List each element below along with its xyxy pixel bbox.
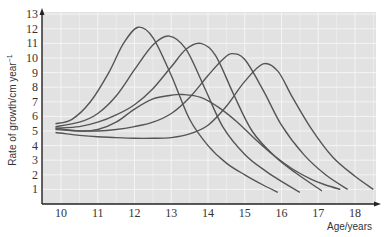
y-tick-6: 6	[32, 109, 38, 123]
y-tick-7: 7	[32, 95, 38, 109]
x-tick-14: 14	[202, 206, 214, 220]
x-tick-15: 15	[239, 206, 251, 220]
x-axis-label: Age/years	[327, 221, 372, 232]
y-axis-label-sup: −1	[6, 54, 13, 62]
y-tick-11: 11	[26, 36, 38, 50]
y-axis-label-text: Rate of growth/cm year	[7, 62, 18, 166]
x-tick-10: 10	[55, 206, 67, 220]
y-tick-8: 8	[32, 80, 38, 94]
x-tick-17: 17	[312, 206, 324, 220]
y-tick-13: 13	[26, 7, 38, 21]
y-tick-3: 3	[32, 153, 38, 167]
y-tick-9: 9	[32, 66, 38, 80]
x-tick-16: 16	[276, 206, 288, 220]
y-axis-label: Rate of growth/cm year−1	[6, 54, 18, 165]
growth-rate-chart: 12345678910111213 101112131415161718 Age…	[0, 0, 388, 237]
x-tick-11: 11	[92, 206, 104, 220]
x-tick-labels: 101112131415161718	[55, 206, 361, 220]
y-tick-1: 1	[32, 182, 38, 196]
y-tick-4: 4	[32, 139, 38, 153]
x-tick-13: 13	[165, 206, 177, 220]
y-tick-2: 2	[32, 168, 38, 182]
y-tick-10: 10	[26, 51, 38, 65]
x-tick-12: 12	[129, 206, 141, 220]
x-tick-18: 18	[349, 206, 361, 220]
y-tick-labels: 12345678910111213	[26, 7, 38, 196]
y-tick-5: 5	[32, 124, 38, 138]
y-tick-12: 12	[26, 22, 38, 36]
